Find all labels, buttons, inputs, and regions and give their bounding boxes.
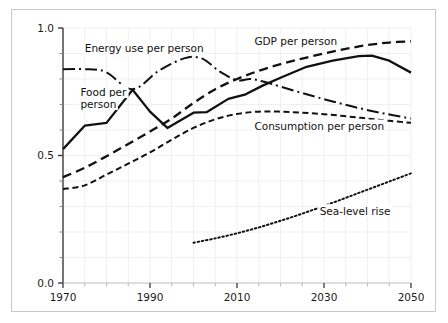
line-chart: 0.00.51.019701990201020302050 Energy use… <box>0 0 448 323</box>
annotation-sea-level-rise: Sea-level rise <box>320 205 391 217</box>
chart-figure: 0.00.51.019701990201020302050 Energy use… <box>0 0 448 323</box>
y-tick-label: 1.0 <box>37 22 54 34</box>
x-tick-label: 2050 <box>398 291 425 303</box>
annotation-energy-use-per-person: Energy use per person <box>85 42 204 54</box>
annotation-gdp-per-person: GDP per person <box>254 35 337 47</box>
y-tick-label: 0.5 <box>37 149 54 161</box>
x-tick-label: 1990 <box>137 291 164 303</box>
x-tick-label: 2010 <box>224 291 251 303</box>
y-tick-label: 0.0 <box>37 277 54 289</box>
x-tick-label: 2030 <box>311 291 338 303</box>
gridlines <box>63 28 411 283</box>
annotation-person: person <box>80 98 116 110</box>
annotation-food-per: Food per <box>80 86 127 98</box>
annotation-consumption-per-person: Consumption per person <box>254 120 384 132</box>
series-annotations: Energy use per personGDP per personFood … <box>79 34 392 217</box>
x-tick-label: 1970 <box>50 291 77 303</box>
axes <box>58 28 411 288</box>
